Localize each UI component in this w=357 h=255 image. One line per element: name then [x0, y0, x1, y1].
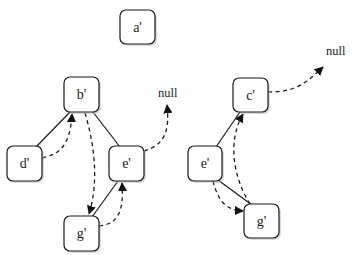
node-g-right: g'	[244, 204, 281, 240]
thread-c-to-null	[268, 67, 323, 92]
node-a: a'	[120, 10, 157, 46]
node-label: a'	[133, 20, 142, 35]
null-label-right: null	[326, 44, 346, 58]
thread-e1-to-null	[144, 105, 168, 151]
edge-b-e1	[93, 112, 120, 147]
node-e-left: e'	[109, 146, 146, 183]
node-label: g'	[257, 214, 267, 229]
node-label: b'	[77, 87, 87, 102]
thread-e2-to-g2	[213, 181, 243, 211]
node-label: c'	[246, 88, 255, 103]
edge-e2-g2	[218, 180, 252, 205]
edge-b-d	[36, 112, 70, 147]
node-d: d'	[7, 146, 44, 183]
edge-e1-g1	[92, 181, 118, 217]
node-label: e'	[201, 156, 210, 171]
thread-g1-to-e1	[99, 183, 122, 226]
tree-diagram: a' b' d' e' g' c' e' g' null null	[0, 0, 357, 255]
node-e-right: e'	[188, 146, 224, 183]
thread-b-to-g1	[85, 113, 95, 214]
node-label: d'	[20, 156, 30, 171]
node-label: g'	[77, 226, 87, 241]
node-g-left: g'	[64, 216, 101, 253]
node-label: e'	[122, 156, 131, 171]
node-c: c'	[233, 78, 270, 114]
thread-g2-to-c	[234, 114, 250, 204]
node-b: b'	[64, 77, 101, 114]
null-label-left: null	[158, 86, 178, 100]
